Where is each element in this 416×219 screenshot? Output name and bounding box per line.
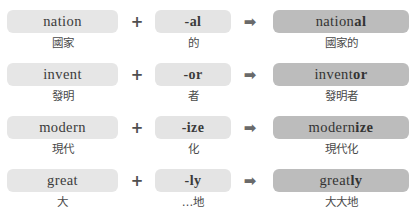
- result-stem: invent: [314, 66, 353, 83]
- base-word-chip: great: [7, 169, 118, 192]
- result-word-gloss: 現代化: [325, 142, 358, 156]
- result-stem: modern: [309, 119, 356, 136]
- arrow-right-icon: ➡: [238, 66, 262, 84]
- suffix-cell: -ize 化: [155, 116, 231, 156]
- result-affix: al: [354, 13, 366, 30]
- plus-sign: +: [125, 119, 149, 137]
- table-row: great 大 + -ly …地 ➡ greatly 大大地: [0, 169, 416, 219]
- result-word-gloss: 大大地: [325, 195, 358, 209]
- result-word-cell: inventor 發明者: [273, 63, 409, 103]
- result-affix: ize: [355, 119, 373, 136]
- result-word-cell: greatly 大大地: [273, 169, 409, 209]
- base-word-cell: invent 發明: [7, 63, 118, 103]
- base-word-chip: modern: [7, 116, 118, 139]
- plus-sign: +: [125, 13, 149, 31]
- plus-sign: +: [125, 66, 149, 84]
- result-word-cell: national 國家的: [273, 10, 409, 50]
- arrow-right-icon: ➡: [238, 172, 262, 190]
- arrow-right-icon: ➡: [238, 119, 262, 137]
- result-stem: nation: [316, 13, 355, 30]
- plus-sign: +: [125, 172, 149, 190]
- result-stem: great: [319, 172, 350, 189]
- result-word-chip: inventor: [273, 63, 409, 86]
- suffix-gloss: 化: [188, 142, 199, 156]
- result-word-gloss: 發明者: [325, 89, 358, 103]
- suffix-chip: -ly: [155, 169, 231, 192]
- suffix-cell: -or 者: [155, 63, 231, 103]
- result-affix: ly: [350, 172, 362, 189]
- base-word-chip: invent: [7, 63, 118, 86]
- suffix-gloss: …地: [182, 195, 205, 209]
- suffix-chip: -al: [155, 10, 231, 33]
- suffix-gloss: 的: [188, 36, 199, 50]
- base-word-chip: nation: [7, 10, 118, 33]
- suffix-gloss: 者: [188, 89, 199, 103]
- base-word-cell: great 大: [7, 169, 118, 209]
- suffix-chip: -ize: [155, 116, 231, 139]
- result-word-cell: modernize 現代化: [273, 116, 409, 156]
- result-word-chip: greatly: [273, 169, 409, 192]
- result-word-gloss: 國家的: [325, 36, 358, 50]
- result-word-chip: modernize: [273, 116, 409, 139]
- word-formation-table: nation 國家 + -al 的 ➡ national 國家的 invent …: [0, 0, 416, 219]
- table-row: nation 國家 + -al 的 ➡ national 國家的: [0, 10, 416, 60]
- base-word-gloss: 大: [57, 195, 68, 209]
- result-affix: or: [353, 66, 368, 83]
- base-word-gloss: 現代: [52, 142, 74, 156]
- table-row: modern 現代 + -ize 化 ➡ modernize 現代化: [0, 116, 416, 166]
- base-word-cell: nation 國家: [7, 10, 118, 50]
- base-word-gloss: 發明: [52, 89, 74, 103]
- base-word-cell: modern 現代: [7, 116, 118, 156]
- suffix-cell: -ly …地: [155, 169, 231, 209]
- table-row: invent 發明 + -or 者 ➡ inventor 發明者: [0, 63, 416, 113]
- arrow-right-icon: ➡: [238, 13, 262, 31]
- result-word-chip: national: [273, 10, 409, 33]
- base-word-gloss: 國家: [52, 36, 74, 50]
- suffix-cell: -al 的: [155, 10, 231, 50]
- suffix-chip: -or: [155, 63, 231, 86]
